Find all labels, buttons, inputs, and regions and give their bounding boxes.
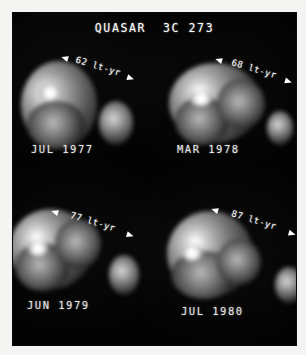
core-hotspot	[39, 84, 61, 102]
core-extension-lump	[55, 219, 101, 269]
core-halo-lump	[27, 101, 85, 149]
astronomical-plate: QUASAR 3C 273 62 lt-yr JUL 1977	[13, 13, 296, 345]
core-hotspot	[189, 91, 213, 106]
epoch-date-label: JUN 1979	[27, 299, 90, 311]
core-extension-lump	[217, 79, 265, 129]
epoch-date-label: JUL 1977	[31, 143, 94, 155]
figure-frame: QUASAR 3C 273 62 lt-yr JUL 1977	[0, 0, 306, 355]
epoch-date-label: MAR 1978	[177, 143, 240, 155]
radio-map-1977	[13, 39, 154, 189]
epoch-panel-1980: 87 lt-yr JUL 1980	[155, 183, 296, 333]
core-extension-lump	[217, 239, 261, 285]
jet-knot	[109, 255, 139, 295]
core-hotspot	[181, 245, 203, 261]
radio-map-1978	[155, 39, 296, 189]
epoch-panel-1978: 68 lt-yr MAR 1978	[155, 39, 296, 189]
jet-knot	[275, 267, 296, 303]
jet-knot	[267, 111, 293, 145]
page-title: QUASAR 3C 273	[13, 21, 296, 35]
jet-knot	[99, 101, 133, 145]
core-hotspot	[27, 241, 49, 256]
epoch-date-label: JUL 1980	[181, 305, 244, 317]
epoch-panel-1979: 77 lt-yr JUN 1979	[13, 183, 154, 333]
epoch-panel-1977: 62 lt-yr JUL 1977	[13, 39, 154, 189]
